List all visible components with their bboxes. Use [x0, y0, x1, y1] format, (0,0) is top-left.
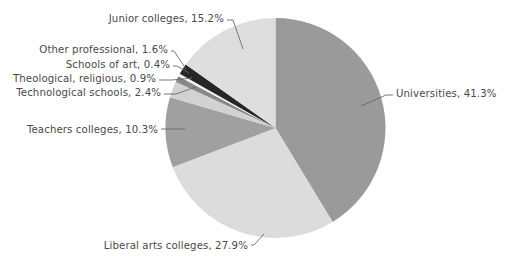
- slice-label: Junior colleges, 15.2%: [108, 13, 224, 24]
- slice-label: Other professional, 1.6%: [39, 44, 168, 55]
- slice-label: Technological schools, 2.4%: [15, 87, 161, 98]
- pie-chart-figure: Universities, 41.3%Liberal arts colleges…: [0, 0, 505, 256]
- pie-slices-group: [165, 18, 385, 238]
- slice-label: Teachers colleges, 10.3%: [26, 124, 158, 135]
- slice-label: Universities, 41.3%: [396, 88, 497, 99]
- pie-chart-canvas: Universities, 41.3%Liberal arts colleges…: [0, 0, 505, 256]
- slice-label: Schools of art, 0.4%: [66, 59, 170, 70]
- slice-label: Liberal arts colleges, 27.9%: [104, 240, 248, 251]
- slice-label: Theological, religious, 0.9%: [12, 73, 156, 84]
